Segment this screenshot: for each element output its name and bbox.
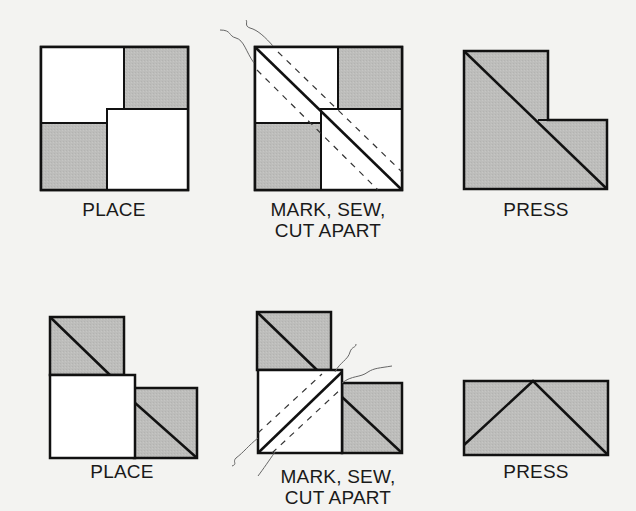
step-label-row2-mark: MARK, SEW, CUT APART: [258, 466, 418, 508]
quilt-steps-diagram: [0, 0, 636, 511]
white-square-bottom-right: [107, 109, 188, 190]
gray-square-bottom-left: [41, 123, 107, 190]
step-label-row1-mark: MARK, SEW, CUT APART: [248, 199, 408, 241]
thread-icon: [335, 344, 356, 372]
row1-mark-figure: [220, 20, 402, 190]
thread-icon: [232, 438, 258, 466]
step-label-row2-place: PLACE: [52, 461, 192, 482]
row1-place-figure: [41, 47, 188, 190]
row1-press-figure: [464, 51, 607, 189]
row2-press-figure: [464, 381, 608, 455]
row2-mark-figure: [232, 312, 402, 476]
thread-icon: [246, 20, 273, 46]
row2-place-figure: [50, 317, 197, 458]
step-label-row1-place: PLACE: [44, 199, 184, 220]
step-label-row1-press: PRESS: [466, 199, 606, 220]
white-square: [50, 375, 135, 458]
thread-icon: [220, 30, 254, 63]
step-label-row2-press: PRESS: [466, 461, 606, 482]
gray-square-top-right: [124, 47, 188, 109]
thread-icon: [342, 366, 392, 383]
